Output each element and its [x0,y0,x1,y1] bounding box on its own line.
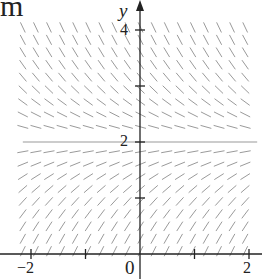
slope-segment [59,73,66,81]
slope-segment [46,48,51,57]
slope-segment [71,86,78,93]
origin-label: 0 [125,258,135,277]
slope-segment [59,48,64,57]
slope-segment [111,198,118,206]
slope-segment [96,162,106,166]
slope-segment [98,198,105,206]
slope-segment [33,234,38,243]
slope-segment [228,86,235,93]
slope-segment [175,162,185,166]
slope-segment [58,86,65,93]
slope-segment [99,234,104,243]
slope-segment [229,210,235,218]
slope-segment [162,151,172,153]
slope-segment [190,73,197,81]
slope-segment [19,86,26,93]
slope-segment [18,125,28,128]
slope-segment [124,73,131,81]
slope-segment [189,198,196,206]
slope-segment [163,86,170,93]
slope-segment [46,73,53,81]
slope-segment [151,48,156,57]
slope-segment [97,112,106,117]
slope-segment [150,73,157,81]
slope-segment [44,112,53,117]
slope-segment [33,48,38,57]
slope-segment [241,86,248,93]
slope-segment [175,112,184,117]
slope-segment [86,234,91,243]
slope-segment [122,151,132,153]
slope-segment [83,125,93,128]
slope-segment [149,162,159,166]
slope-segment [19,198,26,206]
slope-segment [45,186,53,193]
slope-segment [73,23,77,32]
slope-segment [227,162,237,166]
slope-segment [20,48,25,57]
slope-segment [151,234,156,243]
slope-segment [149,125,159,128]
slope-segment [151,23,155,32]
slope-segment [242,73,249,81]
slope-segment [112,222,118,231]
slope-segment [31,151,41,153]
slope-segment [202,186,210,193]
slope-segment [229,73,236,81]
slope-segment [20,234,25,243]
x-tick-label-2: 2 [243,260,251,276]
slope-segment [124,86,131,93]
slope-segment [177,48,182,57]
slope-segment [190,234,195,243]
slope-segment [216,73,223,81]
slope-segment [243,35,248,44]
slope-segment [203,60,209,68]
slope-segment [177,35,182,44]
slope-segment [201,162,211,166]
slope-segment [71,186,79,193]
slope-segment [164,48,169,57]
slope-segment [58,186,66,193]
x-tick-label-neg2: −2 [17,260,34,276]
slope-segment [47,23,51,32]
slope-segment [227,151,237,153]
slope-segment [72,60,78,68]
slope-segment [20,35,25,44]
slope-segment [151,222,157,231]
slope-segment [32,174,41,180]
slope-segment [110,112,119,117]
slope-segment [227,112,236,117]
slope-segment [191,23,195,32]
slope-segment [31,112,40,117]
slope-segment [73,35,78,44]
slope-segment [97,186,105,193]
slope-segment [111,210,117,218]
slope-segment [163,186,171,193]
slope-segment [164,210,170,218]
slope-segment [203,35,208,44]
slope-segment [85,222,91,231]
slope-segment [190,35,195,44]
slope-segment [122,125,132,128]
slope-segment [214,151,224,153]
slope-segment [229,60,235,68]
slope-segment [243,23,247,32]
slope-segment [217,23,221,32]
slope-segment [228,174,237,180]
slope-segment [45,198,52,206]
slope-segment [150,198,157,206]
slope-segment [46,222,52,231]
slope-segment [163,99,171,105]
slope-segment [190,222,196,231]
slope-segment [71,174,80,180]
slope-segment [202,99,210,105]
slope-segment [72,222,78,231]
slope-segment [215,186,223,193]
slope-segment [20,60,26,68]
slope-segment [164,35,169,44]
slope-segment [73,234,78,243]
slope-segment [84,174,93,180]
slope-segment [99,23,103,32]
slope-segment [163,73,170,81]
slope-segment [189,186,197,193]
